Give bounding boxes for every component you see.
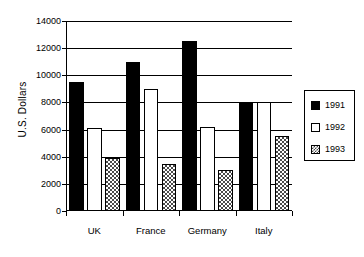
bar-uk-1992[interactable]: [87, 128, 102, 211]
legend-item-1991[interactable]: 1991: [311, 100, 345, 110]
legend-swatch-icon: [311, 123, 320, 132]
bar-group: [66, 21, 123, 211]
legend-item-1993[interactable]: 1993: [311, 144, 345, 154]
legend-item-label: 1992: [325, 122, 345, 132]
x-axis-category-label: UK: [66, 225, 123, 236]
y-axis-line: [66, 21, 67, 211]
legend-item-1992[interactable]: 1992: [311, 122, 345, 132]
bar-uk-1993[interactable]: [105, 158, 120, 211]
bar-italy-1992[interactable]: [257, 102, 272, 211]
x-axis-tick-mark: [66, 211, 67, 216]
y-axis-tick-label: 8000: [41, 102, 61, 103]
plot-area: 02000400060008000100001200014000 UKFranc…: [66, 21, 292, 211]
y-axis-tick-label: 4000: [41, 157, 61, 158]
bar-uk-1991[interactable]: [69, 82, 84, 211]
x-axis-tick-mark: [123, 211, 124, 216]
x-axis-tick-mark: [236, 211, 237, 216]
y-axis-tick-label: 14000: [36, 21, 61, 22]
bar-france-1992[interactable]: [144, 89, 159, 211]
x-axis-tick-mark: [179, 211, 180, 216]
legend-item-label: 1991: [325, 100, 345, 110]
legend-swatch-icon: [311, 101, 320, 110]
y-axis-title: U.S. Dollars: [17, 50, 28, 170]
bar-italy-1993[interactable]: [275, 136, 290, 211]
y-axis-tick-label: 12000: [36, 48, 61, 49]
bar-group: [236, 21, 293, 211]
legend-item-label: 1993: [325, 144, 345, 154]
y-axis-tick-label: 2000: [41, 184, 61, 185]
bar-germany-1992[interactable]: [200, 127, 215, 211]
x-axis-category-label: France: [123, 225, 180, 236]
x-axis-category-label: Italy: [236, 225, 293, 236]
x-axis-tick-mark: [292, 211, 293, 216]
bar-group: [179, 21, 236, 211]
bar-chart: U.S. Dollars 020004000600080001000012000…: [0, 0, 364, 257]
legend: 199119921993: [304, 90, 355, 161]
bar-germany-1991[interactable]: [182, 41, 197, 211]
bar-group: [123, 21, 180, 211]
y-axis-tick-label: 10000: [36, 75, 61, 76]
x-axis-category-label: Germany: [179, 225, 236, 236]
bar-france-1991[interactable]: [126, 62, 141, 211]
y-axis-tick-label: 0: [56, 211, 61, 212]
y-axis-tick-label: 6000: [41, 130, 61, 131]
bar-germany-1993[interactable]: [218, 170, 233, 211]
bar-italy-1991[interactable]: [239, 102, 254, 211]
bar-france-1993[interactable]: [162, 164, 177, 212]
legend-swatch-icon: [311, 145, 320, 154]
